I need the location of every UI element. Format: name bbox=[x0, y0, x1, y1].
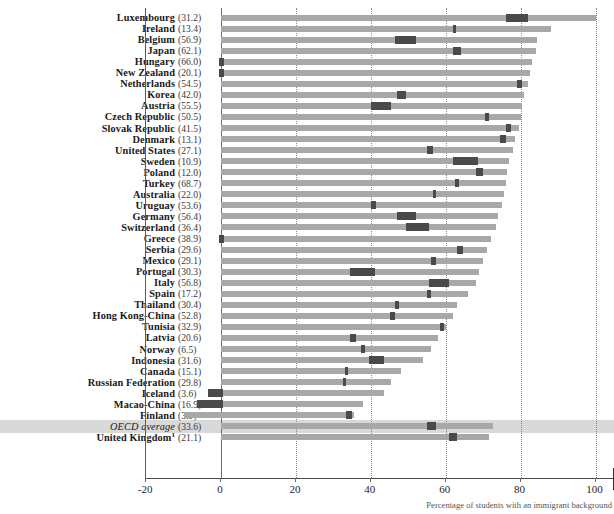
bar bbox=[221, 213, 498, 219]
bar-marker-segment bbox=[219, 69, 224, 77]
bar bbox=[221, 247, 487, 253]
bar-row bbox=[146, 266, 614, 277]
bar bbox=[221, 313, 453, 319]
bar-row bbox=[146, 34, 614, 45]
bar-row bbox=[146, 23, 614, 34]
bar bbox=[221, 302, 457, 308]
bar-row bbox=[146, 145, 614, 156]
bar-row bbox=[146, 178, 614, 189]
bar bbox=[221, 92, 524, 98]
bar-marker-segment bbox=[369, 356, 384, 364]
plot-inner bbox=[146, 8, 614, 478]
bar-row bbox=[146, 432, 614, 443]
x-tickmark--20 bbox=[145, 478, 146, 482]
bar bbox=[221, 357, 423, 363]
bar-marker-segment bbox=[395, 36, 416, 44]
bar-row bbox=[146, 277, 614, 288]
bar-marker-segment bbox=[506, 124, 512, 132]
bar-marker-segment bbox=[350, 334, 356, 342]
bar-row bbox=[146, 123, 614, 134]
x-tick-20: 20 bbox=[289, 482, 300, 496]
x-tick-100: 100 bbox=[586, 482, 603, 496]
bar-marker-segment bbox=[208, 389, 223, 397]
bar bbox=[221, 136, 515, 142]
bar-row bbox=[146, 421, 614, 432]
x-tick-40: 40 bbox=[364, 482, 375, 496]
bar-marker-segment bbox=[395, 301, 399, 309]
bar-marker-segment bbox=[427, 422, 436, 430]
bar-marker-segment bbox=[350, 268, 374, 276]
plot-area bbox=[145, 8, 614, 478]
bar bbox=[221, 59, 532, 65]
bar bbox=[221, 37, 537, 43]
x-tickmark-80 bbox=[520, 478, 521, 482]
bar-row bbox=[146, 67, 614, 78]
bar-row bbox=[146, 100, 614, 111]
bar-marker-segment bbox=[371, 102, 392, 110]
bar bbox=[221, 423, 493, 429]
bar-row bbox=[146, 388, 614, 399]
bar-row bbox=[146, 45, 614, 56]
bar bbox=[221, 202, 502, 208]
bar-marker-segment bbox=[346, 411, 352, 419]
bar-row bbox=[146, 211, 614, 222]
bar-marker-segment bbox=[397, 212, 416, 220]
bar bbox=[221, 48, 536, 54]
bar bbox=[221, 114, 521, 120]
bar-marker-segment bbox=[476, 168, 483, 176]
bar-row bbox=[146, 321, 614, 332]
bar-marker-segment bbox=[506, 14, 528, 22]
bar-marker-segment bbox=[485, 113, 489, 121]
bar-marker-segment bbox=[431, 257, 437, 265]
bar-row bbox=[146, 355, 614, 366]
bar bbox=[221, 401, 363, 407]
bar-row bbox=[146, 167, 614, 178]
bar-row bbox=[146, 366, 614, 377]
bar-row bbox=[146, 78, 614, 89]
bar-marker-segment bbox=[453, 47, 460, 55]
x-axis-caption: Percentage of students with an immigrant… bbox=[426, 500, 612, 510]
bar-marker-segment bbox=[517, 80, 523, 88]
bar-row bbox=[146, 332, 614, 343]
bar bbox=[221, 147, 513, 153]
bar bbox=[221, 390, 384, 396]
bar bbox=[221, 346, 431, 352]
bar-row bbox=[146, 233, 614, 244]
bar bbox=[221, 81, 528, 87]
bar bbox=[184, 412, 354, 418]
bar-marker-segment bbox=[390, 312, 396, 320]
bar-row bbox=[146, 299, 614, 310]
bar-row bbox=[146, 222, 614, 233]
bar-row bbox=[146, 56, 614, 67]
bar-marker-segment bbox=[457, 246, 463, 254]
bar-row bbox=[146, 288, 614, 299]
bar-marker-segment bbox=[197, 400, 223, 408]
bar-marker-segment bbox=[427, 146, 433, 154]
x-axis-line bbox=[145, 478, 614, 479]
bar-marker-segment bbox=[433, 190, 437, 198]
bar-marker-segment bbox=[453, 157, 477, 165]
bar-marker-segment bbox=[343, 378, 347, 386]
bar bbox=[221, 26, 551, 32]
chart-root: Luxembourg(31.2)Ireland(13.4)Belgium(56.… bbox=[0, 0, 614, 514]
bar-marker-segment bbox=[427, 290, 431, 298]
bar bbox=[221, 15, 596, 21]
bar-row bbox=[146, 410, 614, 421]
bar-row bbox=[146, 399, 614, 410]
x-tickmark-100 bbox=[595, 478, 596, 482]
bar bbox=[221, 291, 468, 297]
x-tickmark-20 bbox=[295, 478, 296, 482]
bar bbox=[221, 324, 446, 330]
bar-marker-segment bbox=[440, 323, 444, 331]
bar bbox=[221, 258, 483, 264]
bar-row bbox=[146, 89, 614, 100]
bar-row bbox=[146, 244, 614, 255]
bar bbox=[221, 379, 391, 385]
bar-marker-segment bbox=[361, 345, 365, 353]
bar-row bbox=[146, 134, 614, 145]
bar-row bbox=[146, 310, 614, 321]
bar-marker-segment bbox=[371, 201, 377, 209]
bar-row bbox=[146, 255, 614, 266]
x-tickmark-60 bbox=[445, 478, 446, 482]
bar-marker-segment bbox=[455, 179, 459, 187]
